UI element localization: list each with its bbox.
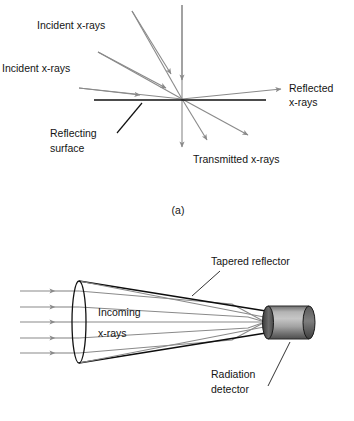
- detector-right-cap: [303, 306, 315, 339]
- label-radiation-detector-line2: detector: [211, 383, 249, 395]
- radiation-detector: [263, 306, 316, 339]
- label-radiation-detector-line1: Radiation: [211, 368, 256, 380]
- label-reflected-xrays-line1: Reflected: [289, 82, 334, 94]
- detector-left-cap: [263, 306, 274, 339]
- label-reflected-xrays-line2: x-rays: [289, 96, 318, 108]
- label-reflecting-surface-line1: Reflecting: [50, 127, 97, 139]
- label-incident-xrays-lower: Incident x-rays: [2, 62, 70, 74]
- x-ray-reflection-figure: Incident x-rays Incident x-rays Reflecte…: [0, 0, 354, 421]
- caption-panel-a: (a): [172, 204, 185, 216]
- label-incoming-xrays-line2: x-rays: [98, 327, 127, 339]
- label-incoming-xrays-line1: Incoming: [98, 306, 141, 318]
- label-incident-xrays-upper: Incident x-rays: [37, 19, 105, 31]
- label-reflecting-surface-line2: surface: [50, 142, 85, 154]
- label-transmitted-xrays: Transmitted x-rays: [193, 153, 280, 165]
- label-tapered-reflector: Tapered reflector: [211, 255, 290, 267]
